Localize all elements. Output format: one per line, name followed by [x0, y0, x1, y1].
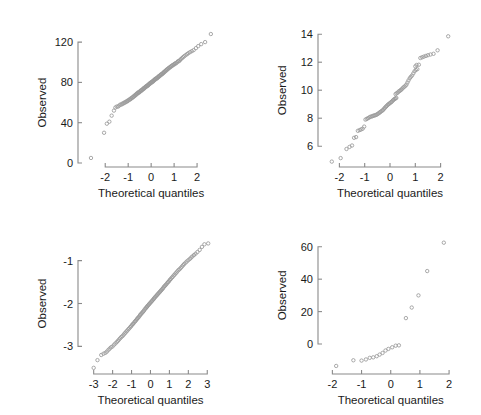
x-tick-label: -1: [357, 378, 367, 390]
data-point: [89, 156, 92, 159]
y-axis-title: Observed: [276, 65, 288, 115]
data-point-series: [334, 241, 445, 368]
data-point: [209, 32, 212, 35]
x-tick-label: 1: [412, 171, 418, 183]
plot-area: 68101214-2-1012Theoretical quantilesObse…: [240, 0, 480, 207]
x-axis-title: Theoretical quantiles: [97, 394, 203, 406]
y-tick-label: -3: [63, 340, 73, 352]
y-tick-label: 20: [301, 306, 313, 318]
y-axis-title: Observed: [36, 279, 48, 329]
y-tick-label: 6: [307, 140, 313, 152]
y-tick-label: -1: [63, 255, 73, 267]
x-tick-label: 0: [388, 378, 394, 390]
x-tick-label: 1: [166, 378, 172, 390]
x-tick-label: -1: [127, 378, 137, 390]
data-point: [203, 40, 206, 43]
x-tick-label: 0: [147, 378, 153, 390]
data-point-series: [89, 32, 212, 159]
x-axis-title: Theoretical quantiles: [337, 187, 443, 199]
x-axis-title: Theoretical quantiles: [98, 187, 204, 199]
y-axis-spine: [78, 42, 82, 163]
y-tick-label: 12: [301, 56, 313, 68]
data-point: [110, 114, 113, 117]
x-tick-label: 2: [194, 171, 200, 183]
data-point: [404, 316, 407, 319]
data-point: [92, 366, 95, 369]
data-point: [330, 160, 333, 163]
x-tick-label: -3: [89, 378, 99, 390]
plot-area: -3-2-1-3-2-10123Theoretical quantilesObs…: [0, 207, 240, 414]
x-tick-label: -1: [360, 171, 370, 183]
data-point: [372, 356, 375, 359]
data-point: [417, 294, 420, 297]
data-point: [96, 358, 99, 361]
data-point: [352, 359, 355, 362]
x-tick-label: 0: [148, 171, 154, 183]
y-tick-label: 60: [301, 241, 313, 253]
y-tick-label: 0: [67, 157, 73, 169]
x-tick-label: 1: [171, 171, 177, 183]
panel-top-left: 04080120-2-1012Theoretical quantilesObse…: [0, 0, 240, 207]
data-point: [390, 346, 393, 349]
y-tick-label: 14: [301, 28, 313, 40]
data-point: [339, 156, 342, 159]
panel-bottom-right: 0204060-2-1012Theoretical quantilesObser…: [240, 207, 480, 414]
data-point: [203, 243, 206, 246]
data-point-series: [92, 242, 210, 370]
y-tick-label: 120: [55, 36, 73, 48]
y-axis-spine: [318, 247, 322, 344]
panel-bottom-left: -3-2-1-3-2-10123Theoretical quantilesObs…: [0, 207, 240, 414]
data-point-series: [330, 35, 450, 164]
data-point: [447, 35, 450, 38]
data-point: [334, 364, 337, 367]
x-tick-label: -2: [327, 378, 337, 390]
data-point: [417, 63, 420, 66]
y-axis-title: Observed: [276, 270, 288, 320]
data-point: [102, 131, 105, 134]
x-tick-label: 3: [204, 378, 210, 390]
data-point: [381, 351, 384, 354]
y-tick-label: 80: [61, 76, 73, 88]
data-point: [108, 120, 111, 123]
x-tick-label: -2: [100, 171, 110, 183]
data-point: [436, 49, 439, 52]
panel-top-right: 68101214-2-1012Theoretical quantilesObse…: [240, 0, 480, 207]
x-tick-label: -2: [108, 378, 118, 390]
x-tick-label: 1: [417, 378, 423, 390]
y-axis-title: Observed: [36, 78, 48, 128]
plot-area: 04080120-2-1012Theoretical quantilesObse…: [0, 0, 240, 207]
qq-plot-figure: 04080120-2-1012Theoretical quantilesObse…: [0, 0, 481, 415]
y-tick-label: -2: [63, 298, 73, 310]
data-point: [207, 242, 210, 245]
plot-area: 0204060-2-1012Theoretical quantilesObser…: [240, 207, 480, 414]
y-tick-label: 0: [307, 338, 313, 350]
y-tick-label: 10: [301, 84, 313, 96]
data-point: [410, 306, 413, 309]
data-point: [368, 356, 371, 359]
data-point: [364, 358, 367, 361]
data-point: [200, 42, 203, 45]
y-tick-label: 40: [301, 273, 313, 285]
data-point: [426, 269, 429, 272]
data-point: [360, 359, 363, 362]
y-tick-label: 8: [307, 112, 313, 124]
x-tick-label: 0: [387, 171, 393, 183]
x-tick-label: 2: [446, 378, 452, 390]
x-tick-label: 2: [185, 378, 191, 390]
x-tick-label: -2: [334, 171, 344, 183]
y-tick-label: 40: [61, 117, 73, 129]
x-tick-label: 2: [438, 171, 444, 183]
x-axis-title: Theoretical quantiles: [338, 394, 444, 406]
data-point: [442, 241, 445, 244]
data-point: [387, 347, 390, 350]
x-tick-label: -1: [123, 171, 133, 183]
